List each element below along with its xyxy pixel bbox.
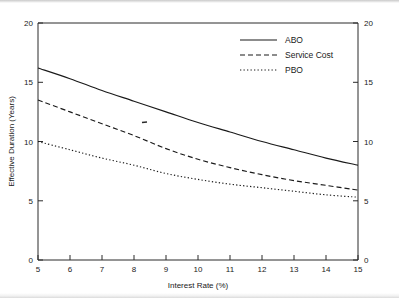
x-tick-label-11: 11 bbox=[226, 265, 235, 274]
y-axis-title: Effective Duration (Years) bbox=[7, 96, 16, 187]
series-line-service-cost bbox=[38, 100, 358, 190]
y-right-tick-label-0: 0 bbox=[364, 256, 369, 265]
y-tick-label-0: 0 bbox=[29, 256, 34, 265]
x-tick-label-14: 14 bbox=[322, 265, 331, 274]
y-tick-label-20: 20 bbox=[24, 19, 33, 28]
series-line-abo bbox=[38, 68, 358, 165]
scan-speck-artifact bbox=[142, 122, 147, 123]
legend-label-pbo: PBO bbox=[285, 65, 303, 75]
x-axis-title: Interest Rate (%) bbox=[168, 281, 229, 290]
y-right-tick-label-15: 15 bbox=[364, 78, 373, 87]
x-tick-label-8: 8 bbox=[132, 265, 137, 274]
y-tick-label-5: 5 bbox=[29, 197, 34, 206]
figure-page: 0 5 10 15 20 0 5 10 15 20 5 6 7 8 9 10 1… bbox=[0, 0, 399, 298]
x-tick-label-5: 5 bbox=[36, 265, 41, 274]
effective-duration-chart: 0 5 10 15 20 0 5 10 15 20 5 6 7 8 9 10 1… bbox=[0, 0, 399, 298]
legend-label-service-cost: Service Cost bbox=[285, 50, 334, 60]
x-tick-label-7: 7 bbox=[100, 265, 105, 274]
y-tick-label-15: 15 bbox=[24, 78, 33, 87]
x-axis-ticks bbox=[38, 255, 358, 260]
legend: ABO Service Cost PBO bbox=[240, 35, 334, 75]
x-tick-label-10: 10 bbox=[194, 265, 203, 274]
x-tick-label-6: 6 bbox=[68, 265, 73, 274]
x-tick-label-12: 12 bbox=[258, 265, 267, 274]
x-tick-label-13: 13 bbox=[290, 265, 299, 274]
series-line-pbo bbox=[38, 142, 358, 198]
y-right-tick-label-20: 20 bbox=[364, 19, 373, 28]
y-right-tick-label-10: 10 bbox=[364, 138, 373, 147]
y-tick-label-10: 10 bbox=[24, 138, 33, 147]
y-axis-right-ticks bbox=[353, 23, 358, 260]
legend-label-abo: ABO bbox=[285, 35, 303, 45]
series-group bbox=[38, 68, 358, 197]
y-right-tick-label-5: 5 bbox=[364, 197, 369, 206]
x-tick-label-15: 15 bbox=[354, 265, 363, 274]
x-tick-label-9: 9 bbox=[164, 265, 169, 274]
